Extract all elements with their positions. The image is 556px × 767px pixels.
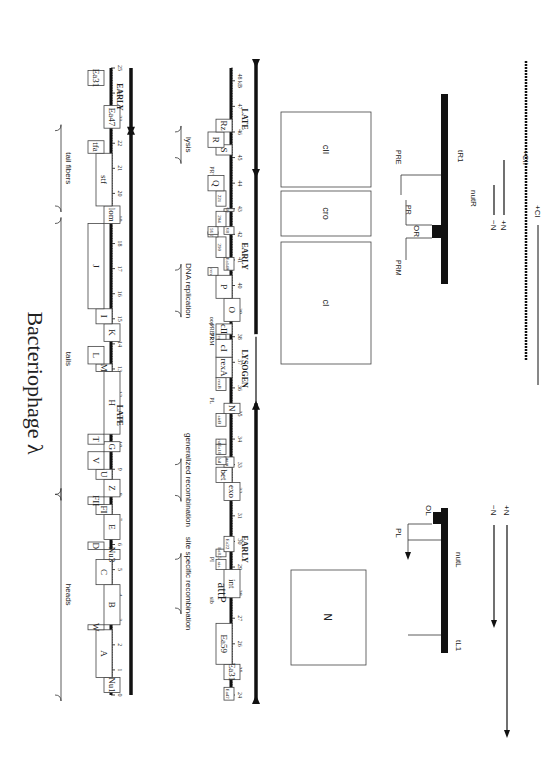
gene-label: Ea140 [225, 257, 230, 270]
ruler-tick-label: 15 [117, 316, 123, 322]
gene-label: W [91, 623, 101, 632]
group-label: generalized recombination [184, 433, 193, 527]
gene-label: 290 [217, 243, 222, 251]
gene-label: rexB [217, 379, 222, 389]
group-bracket [175, 264, 181, 317]
gene-label: B [107, 602, 117, 608]
gene-label: cII [219, 324, 229, 334]
site-nutr: nutR [469, 190, 478, 207]
gene-label: D [91, 543, 101, 550]
ruler-tick-label: 22 [117, 140, 123, 146]
gene-label: 68 [225, 228, 230, 234]
gene-label: Ea10 [217, 444, 222, 455]
gene-label: N [227, 405, 237, 412]
ruler-tick-label: 13 [117, 366, 123, 372]
ruler-tick-label: 2 [117, 643, 123, 646]
ruler-tick-label: 46 [237, 129, 243, 135]
operator-or [432, 225, 441, 238]
marker-label: PI [209, 557, 215, 562]
ruler-tick-label: 29 [237, 564, 243, 570]
gene-label: Ea47 [107, 108, 117, 127]
ruler-tick-label: 1 [117, 668, 123, 671]
ruler-tick-label: 43 [237, 206, 243, 212]
gene-label: Nu3 [107, 547, 117, 563]
gene-label: 221 [217, 195, 222, 203]
gene-label: Nu1 [107, 677, 117, 693]
group-bracket [175, 553, 181, 614]
gene-label: kil [217, 458, 222, 464]
gene-label: cI [219, 345, 229, 352]
operator-ol [433, 512, 441, 524]
gene-label: K [107, 329, 117, 336]
gene-label: sieB [217, 415, 222, 425]
ruler-tick-label: 16 [117, 291, 123, 297]
ruler-tick-label: 34 [237, 436, 243, 442]
gene-label: ren [209, 268, 214, 275]
gene-label: Ea8.5 [217, 547, 222, 559]
ruler-tick-label: 24 [237, 692, 243, 698]
page-title: Bacteriophage λ [23, 311, 48, 455]
gene-label: 204 [217, 215, 222, 223]
arrow-label: −N [489, 505, 498, 516]
gene-label: P [219, 284, 229, 289]
gene-label: lom [107, 208, 117, 222]
gene-label: Rz [219, 121, 229, 131]
gene-label: J [91, 264, 101, 268]
promoter-pl: PL [394, 528, 403, 538]
ruler-tick-label: 5 [117, 568, 123, 571]
ruler-tick-label: 27 [237, 615, 243, 621]
bacteriophage-lambda-map: Bacteriophage λ 012345678910111213141516… [0, 0, 556, 767]
ruler-tick-label: 26 [237, 641, 243, 647]
group-label: DNA replication [184, 263, 193, 318]
operator-or-label: OR [412, 225, 421, 237]
gene-label: Ea47 [225, 689, 230, 700]
transcript-label: LATE [115, 405, 124, 426]
gene-label: ral [217, 439, 222, 445]
promoter-prm: PRM [395, 260, 402, 276]
left-operon-regulation: NPLOLnutLtL1−N+N [291, 505, 511, 738]
group-bracket [55, 125, 61, 212]
ruler-tick-label: 45 [237, 155, 243, 161]
arrow-label: +N [502, 505, 511, 516]
transcript-label: EARLY [240, 242, 249, 269]
group-label: heads [64, 584, 73, 606]
ruler-tick-label: 48 kB [237, 74, 243, 89]
ruler-tick-label: 33 [237, 462, 243, 468]
group-bracket [175, 126, 181, 164]
ruler-tick-label: 20 [117, 190, 123, 196]
ruler-tick-label: 25 [117, 65, 123, 71]
gene-label: bet [219, 469, 229, 480]
site-tr1: tR1 [456, 150, 465, 163]
ruler-tick-label: 14 [117, 341, 123, 347]
promoter-pre: PRE [395, 150, 402, 165]
gene-label: I [99, 315, 109, 318]
group-bracket [55, 488, 61, 701]
arrow-label: +CII [521, 150, 530, 165]
group-bracket [55, 217, 61, 500]
marker-label: PL [209, 397, 215, 404]
ruler-tick-label: 0 [117, 694, 123, 697]
ruler-tick-label: 38 [237, 334, 243, 340]
ruler-tick-label: 21 [117, 165, 123, 171]
gene-label: tfa [91, 142, 101, 152]
ruler-tick-label: 31 [237, 513, 243, 519]
gene-label: stf [99, 175, 109, 184]
gene-box-label: cI [321, 299, 331, 306]
dna-bar [441, 508, 448, 653]
gene-label: Ea59 [219, 635, 229, 654]
gene-label: G [107, 443, 117, 450]
gene-label: E [107, 524, 117, 530]
gene-label: L [91, 352, 101, 358]
transcript-label: EARLY [115, 83, 124, 110]
gene-label: U [99, 471, 109, 478]
arrow-label: +N [499, 220, 508, 231]
gene-label: T [91, 436, 101, 442]
gene-label: rexA [219, 358, 229, 376]
gene-n-label: N [322, 613, 333, 620]
gene-box-label: cII [321, 145, 331, 155]
gene-label: 56 [209, 228, 214, 234]
right-operon-regulation: cIcrocIIORPRMPRPREtR1nutR−N+N+CII+CI [281, 60, 542, 385]
gene-label: Q [211, 180, 221, 187]
gene-label: R [211, 137, 221, 143]
transcript-label: LYSOGEN [240, 350, 249, 389]
